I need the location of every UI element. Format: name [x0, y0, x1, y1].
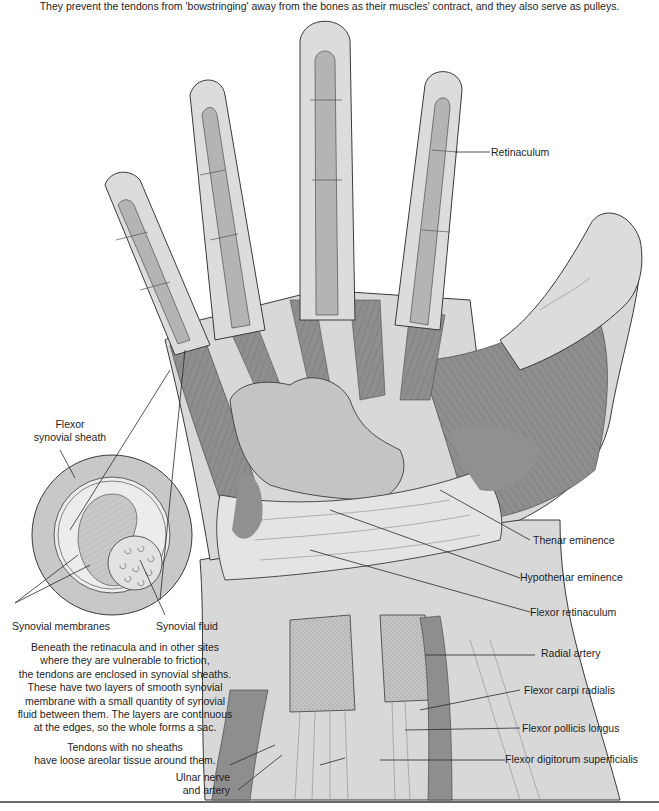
no-sheath-paragraph-line: Tendons with no sheaths [0, 741, 250, 754]
label-hypothenar-eminence: Hypothenar eminence [520, 571, 623, 584]
label-flexor-synovial-sheath: Flexor synovial sheath [25, 418, 115, 444]
sheath-paragraph-line: membrane with a small quantity of synovi… [0, 695, 250, 708]
label-flexor-pollicis-longus: Flexor pollicis longus [522, 722, 619, 735]
little-finger [105, 172, 210, 355]
label-synovial-fluid: Synovial fluid [156, 620, 218, 633]
sheath-paragraph-line: at the edges, so the whole forms a sac. [0, 721, 250, 734]
label-ulnar-nerve-line2: and artery [164, 784, 230, 797]
no-sheath-paragraph: Tendons with no sheaths have loose areol… [0, 741, 250, 768]
sheath-paragraph-line: the tendons are enclosed in synovial she… [0, 668, 250, 681]
label-ulnar-nerve-and-artery: Ulnar nerve and artery [164, 771, 230, 797]
index-finger [395, 72, 462, 330]
label-flexor-digitorum-superficialis: Flexor digitorum superficialis [505, 753, 638, 766]
sheath-paragraph-line: where they are vulnerable to friction, [0, 654, 250, 667]
label-flexor-synovial-sheath-line1: Flexor [25, 418, 115, 431]
sheath-paragraph-line: fluid between them. The layers are conti… [0, 708, 250, 721]
label-radial-artery: Radial artery [541, 647, 601, 660]
label-ulnar-nerve-line1: Ulnar nerve [164, 771, 230, 784]
label-synovial-membranes: Synovial membranes [12, 620, 110, 633]
label-thenar-eminence: Thenar eminence [533, 534, 615, 547]
label-flexor-synovial-sheath-line2: synovial sheath [25, 431, 115, 444]
sheath-paragraph-line: These have two layers of smooth synovial [0, 681, 250, 694]
sheath-explanation-paragraph: Beneath the retinacula and in other site… [0, 641, 250, 735]
label-retinaculum: Retinaculum [491, 146, 549, 159]
sheath-paragraph-line: Beneath the retinacula and in other site… [0, 641, 250, 654]
bottom-divider [0, 801, 659, 803]
label-flexor-retinaculum: Flexor retinaculum [530, 606, 616, 619]
label-flexor-carpi-radialis: Flexor carpi radialis [524, 684, 615, 697]
ring-finger [190, 80, 265, 340]
synovial-sheath-inset [32, 455, 192, 615]
middle-finger [300, 21, 355, 320]
no-sheath-paragraph-line: have loose areolar tissue around them. [0, 754, 250, 767]
